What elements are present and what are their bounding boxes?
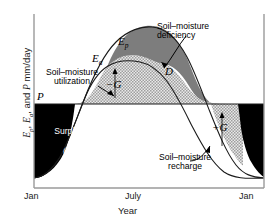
label-surplus: Surplus (R)	[42, 118, 86, 164]
x-tick-jan-right: Jan	[239, 192, 254, 202]
x-tick-jan-left: Jan	[24, 192, 39, 202]
label-surplus-symbol: (R)	[63, 145, 74, 155]
annotation-recharge: Soil–moisturerecharge	[152, 153, 218, 172]
y-axis-title: Ep, Ea, and P mm/day	[22, 18, 35, 168]
label-pos-g: +G	[212, 122, 227, 134]
annotation-deficiency: Soil–moisturedeficiency	[157, 22, 223, 41]
x-axis-title: Year	[118, 206, 137, 216]
label-surplus-text: Surplus	[54, 126, 83, 136]
x-tick-july: July	[125, 192, 141, 202]
label-deficiency-symbol: D	[165, 66, 173, 78]
figure-soil-moisture-budget: Ep, Ea, and P mm/day Ep Ea D P −G +G Soi…	[0, 0, 271, 222]
annotation-utilization: Soil–moistureutilization	[37, 68, 107, 87]
chart-canvas	[0, 0, 271, 222]
label-ep: Ep	[118, 36, 128, 50]
label-neg-g: −G	[106, 79, 121, 91]
label-ea: Ea	[92, 53, 102, 67]
label-precipitation-symbol: P	[37, 91, 44, 103]
